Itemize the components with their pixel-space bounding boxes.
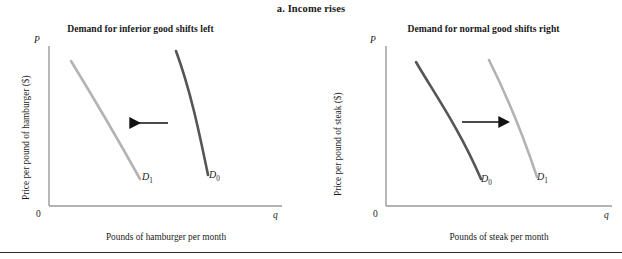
demand-curve-d1-right	[489, 60, 537, 177]
figure-income-rises: a. Income rises Demand for inferior good…	[0, 0, 622, 259]
demand-curve-d0-left	[176, 51, 208, 175]
plot-graphics	[0, 0, 622, 259]
demand-curve-d1-left	[71, 61, 140, 179]
demand-curve-d0-right	[416, 62, 481, 179]
bottom-divider	[0, 252, 622, 253]
axes-left	[49, 46, 282, 206]
